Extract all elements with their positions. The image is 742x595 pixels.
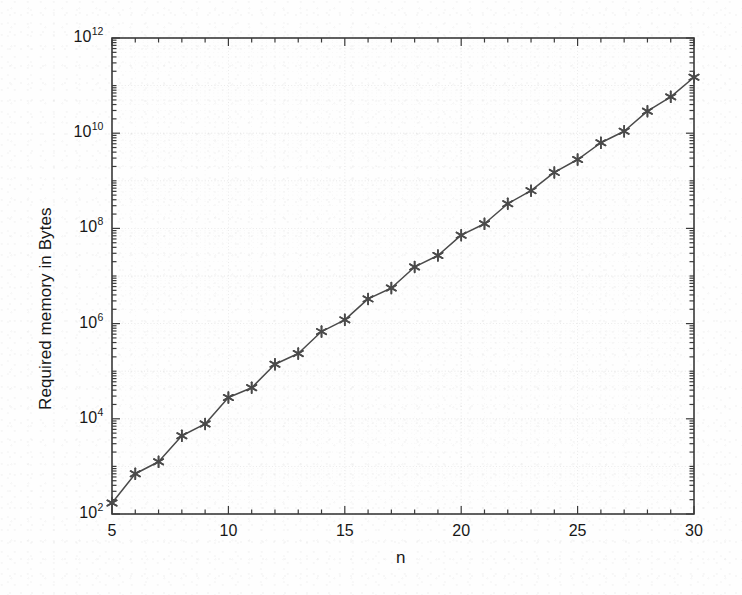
x-axis-title: n — [396, 548, 405, 568]
x-tick-label: 30 — [685, 522, 703, 540]
data-point-marker — [526, 185, 535, 196]
y-tick-label: 104 — [0, 407, 103, 427]
x-tick-label: 10 — [219, 522, 237, 540]
y-tick-mantissa: 10 — [79, 409, 97, 426]
y-tick-exponent: 4 — [98, 406, 104, 418]
plot-axes-area: Required memory in Bytes n 1021041061081… — [0, 0, 742, 595]
y-tick-exponent: 8 — [98, 215, 104, 227]
y-tick-mantissa: 10 — [74, 124, 92, 141]
x-tick-label: 20 — [452, 522, 470, 540]
data-point-marker — [666, 91, 675, 102]
y-tick-mantissa: 10 — [79, 314, 97, 331]
y-tick-label: 106 — [0, 312, 103, 332]
y-axis-title: Required memory in Bytes — [36, 207, 56, 410]
data-point-marker — [689, 72, 698, 83]
grid-lines — [112, 38, 694, 514]
chart-plot — [0, 0, 742, 595]
data-point-marker — [573, 154, 582, 165]
data-point-marker — [596, 137, 605, 148]
x-tick-label: 25 — [569, 522, 587, 540]
y-tick-label: 102 — [0, 502, 103, 522]
y-tick-exponent: 2 — [98, 501, 104, 513]
y-tick-exponent: 6 — [98, 311, 104, 323]
y-tick-exponent: 10 — [92, 120, 104, 132]
y-tick-label: 108 — [0, 216, 103, 236]
series-line — [112, 77, 694, 503]
x-tick-label: 15 — [336, 522, 354, 540]
data-series-required-memory — [107, 72, 698, 509]
y-tick-label: 1012 — [0, 26, 103, 46]
y-tick-exponent: 12 — [92, 25, 104, 37]
y-tick-mantissa: 10 — [79, 219, 97, 236]
y-tick-mantissa: 10 — [79, 504, 97, 521]
data-point-marker — [550, 167, 559, 178]
x-tick-label: 5 — [108, 522, 117, 540]
y-tick-mantissa: 10 — [74, 28, 92, 45]
figure-canvas: Required memory in Bytes n 1021041061081… — [0, 0, 742, 595]
y-tick-label: 1010 — [0, 121, 103, 141]
